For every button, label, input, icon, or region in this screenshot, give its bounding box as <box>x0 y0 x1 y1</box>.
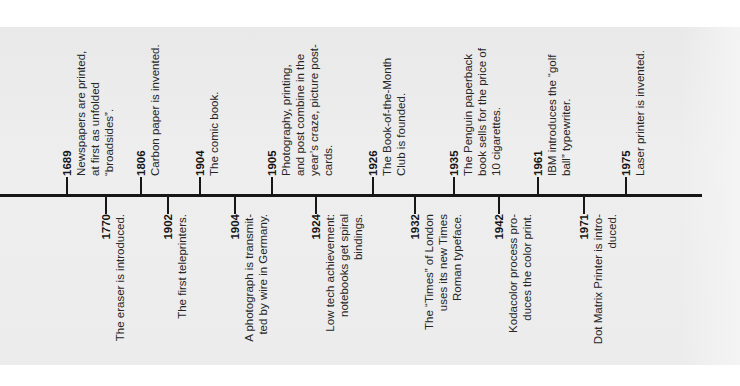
event-description-line: Laser printer is invented. <box>633 26 647 176</box>
event-description-line: Newspapers are printed, <box>74 26 88 176</box>
event-description-line: A photograph is transmit- <box>242 214 256 364</box>
event-description-line: bindings. <box>351 214 365 364</box>
event-label: 1975Laser printer is invented. <box>619 26 647 176</box>
tick-mark <box>583 196 585 214</box>
event-label: 1902The first teleprinters. <box>161 214 189 364</box>
event-description-line: ball” typewriter. <box>559 26 573 176</box>
tick-mark <box>453 177 455 195</box>
event-description-line: duced. <box>605 214 619 364</box>
event-label: 1904The comic book. <box>193 26 221 176</box>
event-year: 1904 <box>228 214 242 364</box>
event-description-line: Kodacolor process pro- <box>506 214 520 364</box>
event-description-line: The “Times” of London <box>422 214 436 364</box>
event-year: 1971 <box>577 214 591 364</box>
event-description-line: Dot Matrix Printer is intro- <box>591 214 605 364</box>
event-label: 1971Dot Matrix Printer is intro-duced. <box>577 214 619 364</box>
event-description-line: Club is founded. <box>394 26 408 176</box>
tick-mark <box>66 177 68 195</box>
event-year: 1961 <box>531 26 545 176</box>
event-label: 1806Carbon paper is invented. <box>134 26 162 176</box>
event-label: 1926The Book-of-the-MonthClub is founded… <box>366 26 408 176</box>
event-description-line: 10 cigarettes. <box>489 26 503 176</box>
event-description-line: uses its new Times <box>436 214 450 364</box>
event-year: 1770 <box>99 214 113 364</box>
event-description-line: notebooks get spiral <box>337 214 351 364</box>
event-description-line: IBM introduces the “golf <box>545 26 559 176</box>
event-description-line: The first teleprinters. <box>175 214 189 364</box>
tick-mark <box>167 196 169 214</box>
event-year: 1902 <box>161 214 175 364</box>
event-description-line: “broadsides”. <box>102 26 116 176</box>
tick-mark <box>537 177 539 195</box>
event-year: 1926 <box>366 26 380 176</box>
event-label: 1905Photography, printing,and post combi… <box>265 26 335 176</box>
tick-mark <box>234 196 236 214</box>
event-description-line: The eraser is introduced. <box>113 214 127 364</box>
event-label: 1904A photograph is transmit-ted by wire… <box>228 214 270 364</box>
event-description-line: Low tech achievement: <box>323 214 337 364</box>
event-year: 1975 <box>619 26 633 176</box>
event-year: 1806 <box>134 26 148 176</box>
tick-mark <box>372 177 374 195</box>
event-description-line: ted by wire in Germany. <box>256 214 270 364</box>
event-description-line: cards. <box>321 26 335 176</box>
event-year: 1904 <box>193 26 207 176</box>
event-description-line: The comic book. <box>207 26 221 176</box>
tick-mark <box>625 177 627 195</box>
tick-mark <box>498 196 500 214</box>
event-description-line: Roman typeface. <box>450 214 464 364</box>
tick-mark <box>414 196 416 214</box>
event-description-line: Photography, printing, <box>279 26 293 176</box>
event-label: 1942Kodacolor process pro-duces the colo… <box>492 214 534 364</box>
event-year: 1932 <box>408 214 422 364</box>
tick-mark <box>271 177 273 195</box>
event-year: 1905 <box>265 26 279 176</box>
event-description-line: book sells for the price of <box>475 26 489 176</box>
tick-mark <box>199 177 201 195</box>
event-description-line: Carbon paper is invented. <box>148 26 162 176</box>
tick-mark <box>315 196 317 214</box>
event-label: 1924Low tech achievement:notebooks get s… <box>309 214 365 364</box>
event-label: 1932The “Times” of Londonuses its new Ti… <box>408 214 464 364</box>
event-description-line: and post combine in the <box>293 26 307 176</box>
tick-mark <box>140 177 142 195</box>
tick-mark <box>105 196 107 214</box>
event-description-line: duces the color print. <box>520 214 534 364</box>
event-label: 1935The Penguin paperbackbook sells for … <box>447 26 503 176</box>
event-year: 1689 <box>60 26 74 176</box>
event-year: 1935 <box>447 26 461 176</box>
event-description-line: The Penguin paperback <box>461 26 475 176</box>
event-year: 1924 <box>309 214 323 364</box>
event-description-line: year’s craze, picture post- <box>307 26 321 176</box>
event-year: 1942 <box>492 214 506 364</box>
event-description-line: at first as unfolded <box>88 26 102 176</box>
event-label: 1961IBM introduces the “golfball” typewr… <box>531 26 573 176</box>
event-description-line: The Book-of-the-Month <box>380 26 394 176</box>
event-label: 1689Newspapers are printed,at first as u… <box>60 26 116 176</box>
event-label: 1770The eraser is introduced. <box>99 214 127 364</box>
